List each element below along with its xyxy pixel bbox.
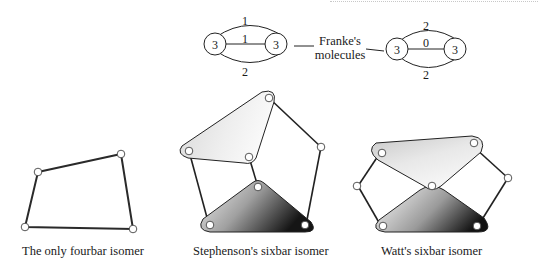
joint-icon: [21, 223, 29, 231]
caption-stephenson: Stephenson's sixbar isomer: [193, 244, 329, 259]
fourbar-linkage: [21, 150, 137, 233]
ternary-link-bottom: [376, 186, 488, 232]
watt-sixbar-linkage: [353, 136, 512, 232]
joint-icon: [378, 149, 386, 157]
linkage-isomers-diagram: 3 3 1 1 2 Franke's molecules 3 3 2 0 2: [0, 0, 538, 265]
joint-icon: [206, 221, 214, 229]
stephenson-sixbar-linkage: [180, 91, 325, 232]
frankes-label-line1: Franke's: [319, 34, 361, 48]
caption-fourbar: The only fourbar isomer: [22, 244, 144, 259]
node-label: 3: [394, 43, 400, 57]
joint-icon: [470, 139, 478, 147]
node-label: 3: [273, 38, 279, 52]
edge-label-top: 2: [423, 19, 429, 33]
joint-icon: [473, 222, 481, 230]
joint-icon: [301, 221, 309, 229]
edge-label-bottom: 2: [242, 65, 248, 79]
joint-icon: [379, 222, 387, 230]
joint-icon: [34, 168, 42, 176]
connector-line-right: [366, 49, 384, 51]
edge-label-middle: 0: [423, 36, 429, 50]
joint-icon: [129, 225, 137, 233]
joint-icon: [504, 174, 512, 182]
ternary-link-top: [371, 136, 482, 190]
joint-icon: [254, 183, 262, 191]
ternary-link-top: [180, 91, 275, 163]
franke-molecule-right: 3 3 2 0 2: [386, 19, 466, 82]
joint-icon: [353, 182, 361, 190]
joint-icon: [185, 147, 193, 155]
joint-icon: [117, 150, 125, 158]
joint-icon: [245, 153, 253, 161]
node-label: 3: [212, 38, 218, 52]
joint-icon: [428, 182, 436, 190]
franke-molecule-left: 3 3 1 1 2: [204, 14, 287, 79]
joint-icon: [317, 143, 325, 151]
joint-icon: [265, 94, 273, 102]
edge-label-bottom: 2: [423, 68, 429, 82]
frankes-label-line2: molecules: [315, 48, 366, 62]
edge-label-middle: 1: [242, 32, 248, 46]
edge-label-top: 1: [242, 14, 248, 28]
node-label: 3: [452, 43, 458, 57]
caption-watt: Watt's sixbar isomer: [381, 244, 482, 259]
